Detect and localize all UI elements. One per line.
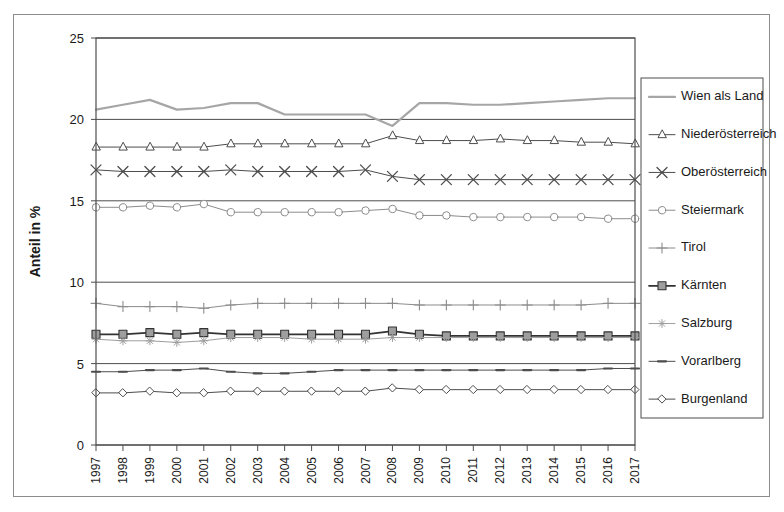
legend-label: Tirol <box>681 239 706 254</box>
chart-figure: 0510152025Anteil in %1997199819992000200… <box>0 0 784 512</box>
xtick-label-2003: 2003 <box>251 457 265 484</box>
marker-circle-open <box>173 204 180 211</box>
ytick-label-20: 20 <box>70 112 84 127</box>
xtick-label-2006: 2006 <box>332 457 346 484</box>
marker-asterisk <box>604 334 612 342</box>
xtick-label-2007: 2007 <box>359 457 373 484</box>
marker-circle-open <box>146 202 153 209</box>
xtick-label-2004: 2004 <box>278 457 292 484</box>
xtick-label-2011: 2011 <box>466 457 480 483</box>
marker-asterisk <box>173 338 181 346</box>
xtick-label-1998: 1998 <box>116 457 130 484</box>
xtick-label-2012: 2012 <box>493 457 507 484</box>
legend-label: Steiermark <box>681 202 744 217</box>
marker-asterisk <box>254 334 262 342</box>
marker-circle-open <box>362 207 369 214</box>
legend-label: Niederösterreich <box>681 126 776 141</box>
xtick-label-2010: 2010 <box>439 457 453 484</box>
marker-asterisk <box>496 334 504 342</box>
marker-asterisk <box>227 334 235 342</box>
legend-label: Wien als Land <box>681 88 763 103</box>
xtick-label-2005: 2005 <box>305 457 319 484</box>
legend-label: Vorarlberg <box>681 353 741 368</box>
marker-circle-open <box>416 212 423 219</box>
marker-asterisk <box>335 335 343 343</box>
marker-circle-open <box>335 208 342 215</box>
marker-circle-open <box>119 204 126 211</box>
square-marker-icon <box>658 282 666 290</box>
circle-marker-icon <box>658 207 665 214</box>
marker-circle-open <box>550 213 557 220</box>
legend-label: Salzburg <box>681 315 732 330</box>
marker-asterisk <box>388 334 396 342</box>
legend-label: Kärnten <box>681 277 727 292</box>
xtick-label-2017: 2017 <box>628 457 642 484</box>
xtick-label-2002: 2002 <box>224 457 238 484</box>
xtick-label-2013: 2013 <box>520 457 534 484</box>
marker-circle-open <box>497 213 504 220</box>
marker-circle-open <box>281 208 288 215</box>
asterisk-marker-icon <box>658 320 666 328</box>
marker-asterisk <box>577 334 585 342</box>
marker-asterisk <box>281 334 289 342</box>
marker-asterisk <box>442 334 450 342</box>
marker-asterisk <box>362 335 370 343</box>
y-axis-title: Anteil in % <box>27 205 43 277</box>
legend-label: Burgenland <box>681 391 748 406</box>
ytick-label-25: 25 <box>70 31 84 46</box>
ytick-label-5: 5 <box>77 357 84 372</box>
line-chart-canvas: 0510152025Anteil in %1997199819992000200… <box>0 0 784 512</box>
marker-asterisk <box>146 337 154 345</box>
marker-circle-open <box>227 208 234 215</box>
marker-asterisk <box>200 337 208 345</box>
marker-asterisk <box>469 334 477 342</box>
marker-asterisk <box>415 334 423 342</box>
xtick-label-2014: 2014 <box>547 457 561 484</box>
marker-asterisk <box>308 335 316 343</box>
marker-circle-open <box>389 205 396 212</box>
xtick-label-2008: 2008 <box>385 457 399 484</box>
marker-circle-open <box>254 208 261 215</box>
marker-circle-open <box>443 212 450 219</box>
marker-circle-open <box>524 213 531 220</box>
plot-background <box>96 38 635 445</box>
xtick-label-2000: 2000 <box>170 457 184 484</box>
marker-circle-open <box>577 213 584 220</box>
ytick-label-10: 10 <box>70 275 84 290</box>
marker-square-filled <box>146 329 154 337</box>
marker-square-filled <box>200 329 208 337</box>
marker-circle-open <box>200 200 207 207</box>
xtick-label-1999: 1999 <box>143 457 157 484</box>
marker-square-filled <box>173 330 181 338</box>
xtick-label-2015: 2015 <box>574 457 588 484</box>
xtick-label-2016: 2016 <box>601 457 615 484</box>
marker-asterisk <box>523 334 531 342</box>
marker-asterisk <box>119 337 127 345</box>
marker-circle-open <box>604 215 611 222</box>
marker-circle-open <box>308 208 315 215</box>
ytick-label-0: 0 <box>77 438 84 453</box>
xtick-label-1997: 1997 <box>89 457 103 484</box>
xtick-label-2009: 2009 <box>412 457 426 484</box>
ytick-label-15: 15 <box>70 194 84 209</box>
marker-circle-open <box>470 213 477 220</box>
xtick-label-2001: 2001 <box>197 457 211 484</box>
marker-asterisk <box>550 334 558 342</box>
legend-label: Oberösterreich <box>681 164 767 179</box>
